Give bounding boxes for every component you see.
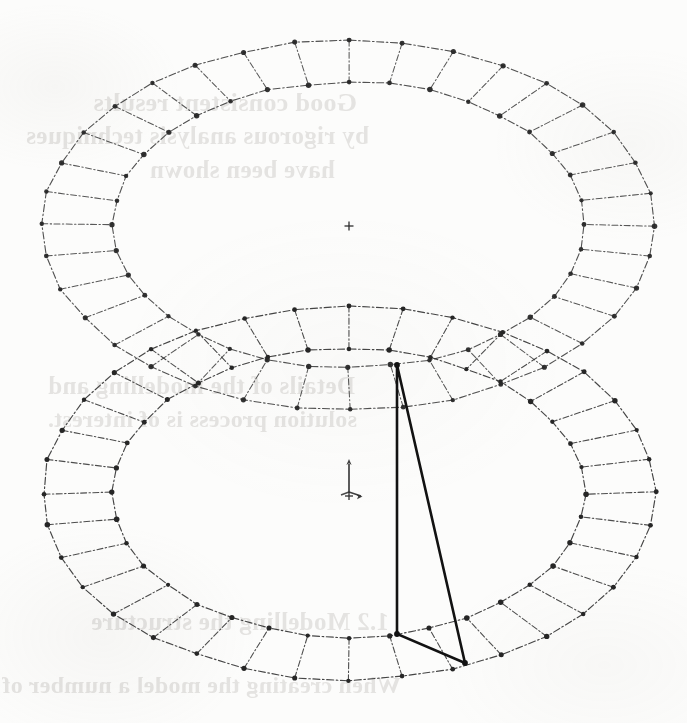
- ring-spoke: [501, 602, 547, 636]
- ring-node: [347, 38, 352, 43]
- triangle-vertex-node: [394, 362, 400, 368]
- ring-spoke: [152, 83, 196, 116]
- ring-node: [126, 272, 131, 277]
- ring-node: [387, 633, 392, 638]
- ring-spoke: [430, 52, 453, 90]
- ring-node: [112, 370, 117, 375]
- ring-spoke: [586, 492, 656, 495]
- ring-node: [111, 611, 116, 616]
- ring-spoke: [114, 373, 167, 400]
- ring-node: [552, 294, 557, 299]
- ring-spoke: [151, 349, 198, 383]
- ring-spoke: [195, 65, 231, 101]
- ring-node: [82, 398, 86, 402]
- ring-spoke: [46, 251, 116, 256]
- ring-node: [142, 293, 147, 298]
- ring-node: [652, 223, 658, 229]
- ring-node: [193, 63, 198, 68]
- ring-node: [194, 329, 198, 333]
- ring-node: [647, 457, 652, 462]
- ring-node: [528, 315, 533, 320]
- ring-spoke: [115, 316, 169, 345]
- ring-node: [44, 254, 49, 259]
- ring-spoke: [570, 163, 635, 175]
- ring-spoke: [501, 351, 548, 381]
- ring-node: [112, 343, 117, 348]
- ring-node: [196, 380, 201, 385]
- ring-node: [347, 304, 352, 309]
- ring-spoke: [530, 585, 583, 614]
- ring-spoke: [114, 585, 169, 614]
- ring-node: [611, 130, 616, 135]
- ring-node: [292, 675, 297, 680]
- ring-node: [579, 247, 583, 251]
- ring-node: [550, 151, 555, 156]
- ring-spoke: [530, 317, 582, 343]
- ring-spoke: [429, 360, 452, 400]
- ring-node: [464, 615, 470, 621]
- ring-spoke: [62, 163, 126, 176]
- ring-spoke: [571, 274, 637, 288]
- ring-node: [241, 50, 246, 55]
- ring-spoke: [295, 42, 309, 85]
- ring-node: [113, 104, 118, 109]
- ring-spoke: [468, 66, 503, 102]
- ring-node: [42, 492, 47, 497]
- ring-node: [579, 465, 583, 469]
- ring-spoke: [85, 295, 145, 317]
- ring-node: [40, 222, 44, 226]
- ring-node: [347, 347, 352, 352]
- ring-node: [612, 398, 617, 403]
- ring-node: [266, 355, 271, 360]
- ring-spoke: [44, 492, 112, 494]
- ring-node: [544, 634, 549, 639]
- ring-node: [60, 428, 65, 433]
- ring-node: [544, 81, 549, 86]
- ring-spoke: [390, 43, 403, 83]
- ring-node: [305, 347, 310, 352]
- ring-node: [230, 365, 234, 369]
- triangle-vertex-node: [394, 631, 400, 637]
- ring-spoke: [195, 349, 230, 386]
- ring-spoke: [530, 105, 583, 132]
- ring-spoke: [584, 224, 654, 226]
- ring-node: [583, 491, 589, 497]
- ring-node: [498, 379, 502, 383]
- ring-spoke: [62, 430, 127, 443]
- ring-node: [633, 160, 638, 165]
- ring-node: [141, 563, 146, 568]
- ring-node: [346, 679, 350, 683]
- ring-node: [114, 248, 119, 253]
- ring-spoke: [197, 618, 232, 654]
- ring-spoke: [581, 249, 650, 256]
- coordinate-gnomon: [341, 459, 363, 499]
- ring-node: [579, 515, 584, 520]
- outer-ellipse: [44, 306, 656, 681]
- ring-node: [347, 80, 352, 85]
- ring-node: [292, 307, 297, 312]
- ring-node: [466, 347, 471, 352]
- ring-spoke: [466, 332, 502, 369]
- ring-node: [45, 522, 51, 528]
- ring-spoke: [531, 372, 584, 402]
- ring-spoke: [46, 192, 117, 201]
- ring-spoke: [581, 517, 650, 526]
- ring-node: [306, 82, 312, 88]
- ring-node: [582, 369, 587, 374]
- ring-node: [500, 330, 505, 335]
- ring-node: [345, 365, 350, 370]
- ring-node: [579, 198, 583, 202]
- ring-node: [124, 541, 129, 546]
- scanned-page: Good consistent resultsby rigorous analy…: [0, 0, 687, 723]
- ring-node: [109, 489, 114, 494]
- ring-spoke: [553, 566, 613, 587]
- ring-spoke: [47, 519, 116, 524]
- ring-spoke: [570, 430, 636, 444]
- ring-node: [44, 457, 49, 462]
- ring-node: [59, 555, 64, 560]
- ring-spoke: [582, 193, 651, 200]
- ring-node: [306, 364, 311, 369]
- ring-spoke: [153, 604, 197, 637]
- ring-node: [550, 420, 554, 424]
- diagram-canvas: [0, 0, 687, 723]
